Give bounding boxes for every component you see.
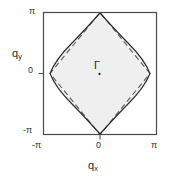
y-tick-label-neg-pi: -π bbox=[23, 126, 32, 135]
x-axis-title: qx bbox=[88, 160, 98, 174]
x-tick-label-pi: π bbox=[151, 141, 157, 150]
plot-canvas bbox=[0, 0, 171, 177]
x-axis-title-subscript: x bbox=[94, 164, 98, 173]
y-tick-label-pi: π bbox=[29, 7, 35, 16]
x-tick-label-zero: 0 bbox=[96, 141, 101, 150]
y-tick-label-zero: 0 bbox=[28, 66, 33, 75]
y-axis-title: qy bbox=[12, 48, 22, 62]
gamma-point-marker bbox=[98, 73, 100, 75]
x-tick-label-neg-pi: -π bbox=[32, 141, 41, 150]
y-axis-title-subscript: y bbox=[18, 52, 22, 61]
brillouin-zone-figure: π 0 -π -π 0 π qy qx Γ bbox=[0, 0, 171, 177]
gamma-point-label: Γ bbox=[94, 60, 100, 71]
